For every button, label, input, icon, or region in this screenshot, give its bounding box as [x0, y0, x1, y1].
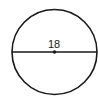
circle-diagram: 18 [0, 0, 98, 100]
diameter-label: 18 [48, 38, 60, 50]
center-point [53, 50, 57, 54]
